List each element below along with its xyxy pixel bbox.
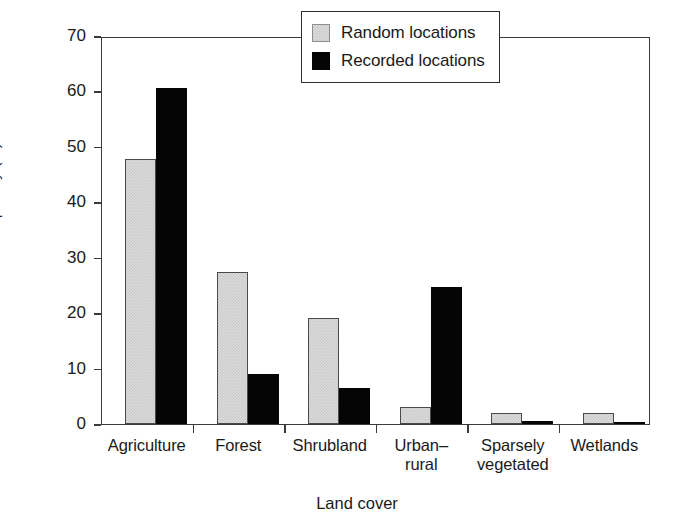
y-tick-mark (94, 147, 101, 149)
y-tick-mark (94, 424, 101, 426)
y-tick-label: 50 (46, 137, 86, 157)
bar-forest-recorded (248, 374, 279, 424)
bar-agriculture-recorded (156, 88, 187, 424)
x-category-label-line: Wetlands (570, 436, 638, 454)
y-tick-mark (94, 202, 101, 204)
x-category-label-line: Forest (215, 436, 261, 454)
y-tick-label: 30 (46, 248, 86, 268)
y-axis-label: Frequency (%) (0, 95, 3, 295)
bar-wetlands-random (583, 413, 614, 424)
legend-swatch-recorded-icon (312, 52, 330, 70)
x-category-label: Shrubland (284, 436, 376, 455)
x-tick-mark (467, 425, 469, 433)
bar-urban-rural-recorded (431, 287, 462, 424)
y-tick-label: 60 (46, 81, 86, 101)
plot-area (101, 37, 650, 425)
y-tick-mark (94, 369, 101, 371)
y-tick-mark (94, 313, 101, 315)
y-tick-label: 70 (46, 26, 86, 46)
x-category-label: Urban–rural (376, 436, 468, 474)
bar-agriculture-random (125, 159, 156, 424)
x-category-label-line: rural (376, 455, 468, 474)
y-tick-label: 40 (46, 192, 86, 212)
y-tick-mark (94, 36, 101, 38)
bar-shrubland-random (308, 318, 339, 424)
legend-item-random: Random locations (312, 20, 485, 46)
x-category-label-line: Shrubland (293, 436, 367, 454)
legend-item-recorded: Recorded locations (312, 48, 485, 74)
x-category-label: Agriculture (101, 436, 193, 455)
legend-swatch-random-icon (312, 24, 330, 42)
x-category-label-line: vegetated (467, 455, 559, 474)
bar-shrubland-recorded (339, 388, 370, 424)
chart-legend: Random locations Recorded locations (301, 11, 500, 83)
y-tick-label: 0 (46, 414, 86, 434)
x-axis-label: Land cover (0, 494, 678, 513)
bar-sparsely-vegetated-recorded (522, 421, 553, 424)
x-tick-mark (559, 425, 561, 433)
bar-wetlands-recorded (614, 422, 645, 424)
bar-urban-rural-random (400, 407, 431, 424)
x-tick-mark (284, 425, 286, 433)
x-category-label: Wetlands (559, 436, 651, 455)
legend-label-random: Random locations (341, 23, 475, 43)
bar-chart: Frequency (%) 010203040506070 Agricultur… (0, 0, 678, 530)
y-tick-mark (94, 91, 101, 93)
legend-label-recorded: Recorded locations (341, 51, 485, 71)
y-tick-label: 10 (46, 359, 86, 379)
x-category-label: Forest (193, 436, 285, 455)
x-category-label-line: Urban– (394, 436, 448, 454)
x-axis-label-text: Land cover (316, 494, 398, 512)
y-tick-label: 20 (46, 303, 86, 323)
y-tick-mark (94, 258, 101, 260)
bar-sparsely-vegetated-random (491, 413, 522, 424)
bar-forest-random (217, 272, 248, 424)
x-tick-mark (193, 425, 195, 433)
x-category-label-line: Sparsely (481, 436, 544, 454)
x-tick-mark (376, 425, 378, 433)
x-category-label-line: Agriculture (108, 436, 186, 454)
x-category-label: Sparselyvegetated (467, 436, 559, 474)
